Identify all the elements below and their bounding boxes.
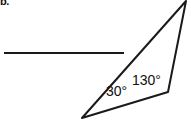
angle-label-130: 130° [132,73,161,87]
geometry-figure: b. 30° 130° [0,0,191,124]
angle-label-30: 30° [106,84,127,98]
figure-canvas [0,0,191,124]
obtuse-triangle [82,1,186,118]
